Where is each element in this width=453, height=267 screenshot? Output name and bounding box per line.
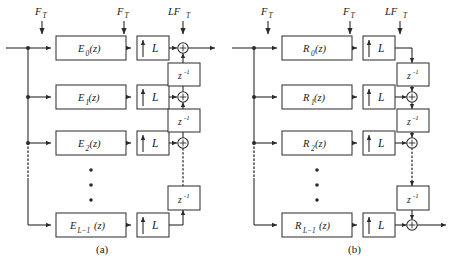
- filter-label-a-2-arg: (z): [90, 138, 102, 150]
- rate-label-b-output-sub: T: [403, 11, 408, 20]
- rate-label-a-mid-sub: T: [125, 11, 130, 20]
- delay-exp-a-2: -1: [184, 192, 190, 199]
- filter-label-a-0-arg: (z): [90, 43, 102, 55]
- upsampler-label-a-3: L: [151, 219, 158, 231]
- ellipsis-dot-a-0: [89, 168, 93, 172]
- delay-label-a-1: z: [177, 117, 182, 127]
- filter-box-b-3: [282, 213, 352, 237]
- adder-b-2: [407, 138, 417, 148]
- delay-label-a-2: z: [177, 195, 182, 205]
- filter-label-a-1-arg: (z): [89, 92, 101, 104]
- adder-a-0: [178, 43, 188, 53]
- ellipsis-dot-a-1: [89, 183, 93, 187]
- caption-a: (a): [96, 243, 109, 256]
- filter-label-b-2-arg: (z): [315, 138, 327, 150]
- adder-a-1: [178, 92, 188, 102]
- filter-label-b-3-arg: (z): [319, 220, 331, 232]
- block-diagram-svg: F T F T LF T E 0 (z) E 1 (z) E 2 (z) E L…: [0, 0, 453, 267]
- delay-label-b-2: z: [406, 195, 411, 205]
- filter-label-b-3-sub: L−1: [302, 226, 316, 235]
- delay-exp-b-2: -1: [413, 192, 419, 199]
- ellipsis-dot-b-0: [315, 168, 319, 172]
- filter-label-a-1-main: E: [77, 92, 85, 103]
- filter-label-a-3-main: E: [69, 220, 77, 231]
- ellipsis-dot-b-2: [315, 198, 319, 202]
- rate-label-a-output-main: LF: [167, 6, 181, 17]
- filter-label-b-0-arg: (z): [315, 43, 327, 55]
- upsampler-label-b-0: L: [377, 42, 384, 54]
- ellipsis-dot-a-2: [89, 198, 93, 202]
- filter-label-a-3-sub: L−1: [77, 226, 91, 235]
- rate-label-a-output-sub: T: [186, 11, 191, 20]
- junction-dot-b-0: [252, 46, 256, 50]
- delay-exp-b-0: -1: [413, 68, 419, 75]
- filter-label-b-3-main: R: [294, 220, 302, 231]
- junction-dot-a-2: [26, 141, 30, 145]
- delay-label-b-0: z: [406, 71, 411, 81]
- upsampler-label-b-3: L: [377, 219, 384, 231]
- filter-label-a-3-arg: (z): [94, 220, 106, 232]
- filter-label-a-0-main: E: [77, 43, 85, 54]
- adder-b-1: [407, 92, 417, 102]
- upsampler-label-b-2: L: [377, 137, 384, 149]
- rate-label-a-input-sub: T: [43, 11, 48, 20]
- rate-label-b-mid-sub: T: [351, 11, 356, 20]
- filter-label-a-2-main: E: [77, 138, 85, 149]
- junction-dot-b-1: [252, 95, 256, 99]
- delay-exp-b-1: -1: [413, 114, 419, 121]
- delay-box-a-1: [168, 109, 200, 132]
- filter-label-b-0-main: R: [302, 43, 310, 54]
- delay-label-a-0: z: [177, 71, 182, 81]
- rate-label-a-mid-main: F: [116, 6, 124, 17]
- delay-exp-a-0: -1: [184, 68, 190, 75]
- figure-canvas: F T F T LF T E 0 (z) E 1 (z) E 2 (z) E L…: [0, 0, 453, 267]
- adder-b-3: [407, 220, 417, 230]
- upsampler-label-a-1: L: [151, 91, 158, 103]
- filter-box-a-3: [56, 213, 126, 237]
- caption-b: (b): [348, 243, 361, 256]
- filter-label-b-1-arg: (z): [314, 92, 326, 104]
- delay-label-b-1: z: [406, 117, 411, 127]
- panel-a: [6, 21, 215, 237]
- delay-box-b-0: [397, 63, 429, 86]
- filter-label-b-1-main: R: [302, 92, 310, 103]
- adder-a-2: [178, 138, 188, 148]
- upsampler-label-a-0: L: [151, 42, 158, 54]
- junction-dot-a-0: [26, 46, 30, 50]
- delay-box-a-0: [168, 63, 200, 86]
- delay-exp-a-1: -1: [184, 114, 190, 121]
- junction-dot-b-2: [252, 141, 256, 145]
- rate-label-b-output-main: LF: [384, 6, 398, 17]
- panel-b: [232, 21, 446, 237]
- rate-label-b-input-sub: T: [269, 11, 274, 20]
- upsampler-label-a-2: L: [151, 137, 158, 149]
- upsampler-label-b-1: L: [377, 91, 384, 103]
- rate-label-a-input-main: F: [34, 6, 42, 17]
- junction-dot-a-1: [26, 95, 30, 99]
- filter-label-b-2-main: R: [302, 138, 310, 149]
- delay-box-b-1: [397, 109, 429, 132]
- rate-label-b-mid-main: F: [342, 6, 350, 17]
- ellipsis-dot-b-1: [315, 183, 319, 187]
- rate-label-b-input-main: F: [260, 6, 268, 17]
